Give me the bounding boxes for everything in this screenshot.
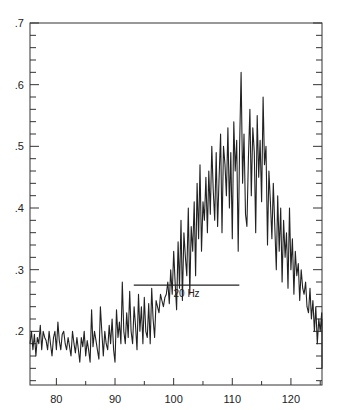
annotations-layer: 20 Hz — [134, 285, 240, 299]
y-tick-label: .5 — [15, 140, 24, 152]
bandwidth-label: 20 Hz — [173, 288, 199, 299]
y-tick-label: .2 — [15, 325, 24, 337]
y-tick-label: .3 — [15, 264, 24, 276]
y-tick-label: .6 — [15, 79, 24, 91]
y-tick-label: .7 — [15, 17, 24, 29]
spectrum-chart: 8090100110120 .2.3.4.5.6.7 20 Hz — [0, 0, 340, 410]
y-axis-ticks: .2.3.4.5.6.7 — [15, 17, 322, 381]
series-layer — [30, 72, 322, 368]
x-tick-label: 90 — [109, 393, 121, 405]
x-tick-label: 80 — [50, 393, 62, 405]
x-tick-label: 110 — [224, 393, 242, 405]
x-tick-label: 100 — [164, 393, 182, 405]
x-tick-label: 120 — [282, 393, 300, 405]
x-axis-ticks: 8090100110120 — [50, 378, 320, 405]
y-tick-label: .4 — [15, 202, 24, 214]
series-line-spectrum — [30, 72, 322, 368]
